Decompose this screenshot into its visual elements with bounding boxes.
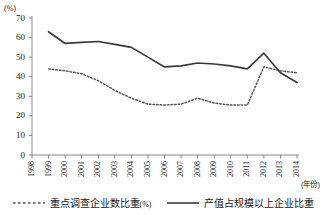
x-axis-tick-2002: 2002 bbox=[94, 161, 102, 177]
x-axis-tick-2009: 2009 bbox=[210, 161, 218, 177]
legend-label-solid: 产值占规模以上企业比重 bbox=[204, 195, 314, 210]
y-axis-tick-60: 60 bbox=[5, 33, 25, 42]
x-axis-tick-2007: 2007 bbox=[177, 161, 185, 177]
x-axis-tick-2008: 2008 bbox=[194, 161, 202, 177]
legend-item-solid[interactable]: 产值占规模以上企业比重 bbox=[166, 195, 314, 210]
legend-item-dotted[interactable]: 重点调查企业数比重(%) bbox=[12, 195, 152, 210]
y-axis-tick-20: 20 bbox=[5, 111, 25, 120]
y-axis-tick-30: 30 bbox=[5, 92, 25, 101]
y-axis-tick-50: 50 bbox=[5, 53, 25, 62]
legend-swatch-dotted bbox=[12, 198, 46, 208]
chart-line-series-0 bbox=[49, 67, 297, 105]
x-axis-tick-2010: 2010 bbox=[227, 161, 235, 177]
chart-series-layer bbox=[49, 32, 297, 105]
x-axis-tick-2012: 2012 bbox=[260, 161, 268, 177]
x-axis-tick-2000: 2000 bbox=[61, 161, 69, 177]
chart-container: (%) 010203040506070 19981999200020012002… bbox=[0, 0, 325, 215]
chart-legend: 重点调查企业数比重(%) 产值占规模以上企业比重 bbox=[0, 190, 325, 215]
x-axis-tick-1999: 1999 bbox=[45, 161, 53, 177]
x-axis-tick-2004: 2004 bbox=[127, 161, 135, 177]
legend-label-dotted: 重点调查企业数比重(%) bbox=[50, 195, 152, 210]
x-axis-title: (年份) bbox=[301, 178, 320, 189]
x-axis-tick-2001: 2001 bbox=[78, 161, 86, 177]
chart-axes bbox=[29, 16, 299, 159]
y-axis-tick-40: 40 bbox=[5, 72, 25, 81]
y-axis-tick-10: 10 bbox=[5, 131, 25, 140]
x-axis-tick-2011: 2011 bbox=[243, 161, 251, 177]
x-axis-tick-2014: 2014 bbox=[293, 161, 301, 177]
x-axis-tick-2005: 2005 bbox=[144, 161, 152, 177]
x-axis-tick-2013: 2013 bbox=[276, 161, 284, 177]
y-axis-tick-0: 0 bbox=[5, 151, 25, 160]
x-axis-tick-1998: 1998 bbox=[28, 161, 36, 177]
legend-swatch-solid bbox=[166, 198, 200, 208]
x-axis-tick-2003: 2003 bbox=[111, 161, 119, 177]
y-axis-tick-70: 70 bbox=[5, 14, 25, 23]
chart-plot-area bbox=[0, 0, 325, 215]
x-axis-tick-2006: 2006 bbox=[161, 161, 169, 177]
